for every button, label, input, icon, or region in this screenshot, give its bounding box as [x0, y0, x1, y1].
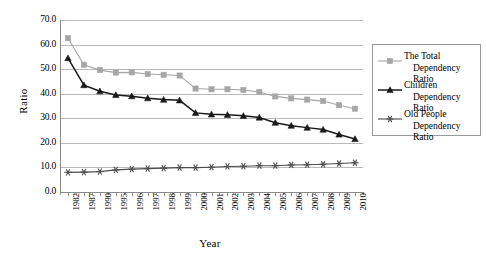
data-point — [97, 68, 102, 73]
data-point — [145, 71, 150, 76]
legend-asterisk-icon — [377, 111, 403, 123]
data-point — [241, 87, 246, 92]
data-point — [289, 96, 294, 101]
series-2 — [65, 55, 358, 142]
data-point — [352, 106, 357, 111]
data-point — [209, 87, 214, 92]
data-point — [112, 167, 119, 173]
data-point — [177, 73, 182, 78]
data-point — [272, 163, 279, 169]
data-point — [208, 164, 215, 170]
data-point — [144, 166, 151, 172]
data-point — [65, 36, 70, 41]
legend-label-line2: Dependency Ratio — [404, 121, 480, 144]
series-1 — [65, 36, 357, 112]
data-point — [304, 162, 311, 168]
data-point — [193, 86, 198, 91]
legend-label-line1: The Total — [404, 51, 480, 63]
data-point — [256, 163, 263, 169]
data-point — [351, 160, 358, 166]
data-point — [161, 72, 166, 77]
data-point — [335, 160, 342, 166]
data-point — [160, 165, 167, 171]
data-point — [273, 94, 278, 99]
data-point — [321, 98, 326, 103]
data-point — [320, 161, 327, 167]
legend-square-icon — [377, 53, 403, 65]
data-point — [176, 165, 183, 171]
data-point — [288, 162, 295, 168]
chart-figure: Ratio 70.060.050.040.030.020.010.00.0 19… — [0, 0, 486, 259]
data-point — [128, 166, 135, 172]
legend-label-line1: Old People — [404, 109, 480, 121]
data-point — [96, 168, 103, 174]
series-3 — [64, 160, 358, 176]
data-point — [81, 62, 86, 67]
series-line — [68, 38, 355, 109]
data-point — [257, 89, 262, 94]
data-point — [240, 163, 247, 169]
legend-label: Old PeopleDependency Ratio — [404, 109, 480, 144]
data-point — [225, 87, 230, 92]
data-point — [224, 163, 231, 169]
data-point — [192, 165, 199, 171]
data-point — [305, 97, 310, 102]
data-point — [129, 70, 134, 75]
data-point — [64, 169, 71, 175]
series-line — [68, 58, 355, 139]
data-point — [65, 55, 71, 61]
data-point — [336, 103, 341, 108]
data-point — [113, 70, 118, 75]
chart-legend: The TotalDependency RatioChildrenDepende… — [372, 44, 481, 136]
legend-triangle-icon — [377, 82, 403, 94]
legend-marker — [387, 58, 392, 63]
legend-marker — [386, 116, 393, 122]
legend-label-line1: Children — [404, 80, 480, 92]
data-point — [80, 169, 87, 175]
